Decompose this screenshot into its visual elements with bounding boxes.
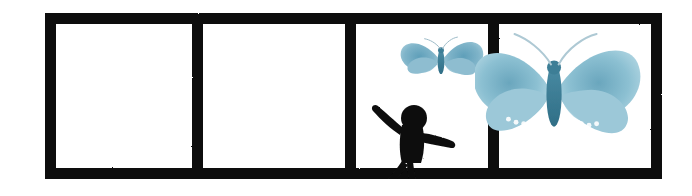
comic-strip-canvas (0, 0, 692, 196)
panel-four[interactable] (499, 24, 651, 168)
panel-one[interactable] (56, 24, 192, 168)
panel-two[interactable] (203, 24, 345, 168)
panel-three[interactable] (356, 24, 488, 168)
